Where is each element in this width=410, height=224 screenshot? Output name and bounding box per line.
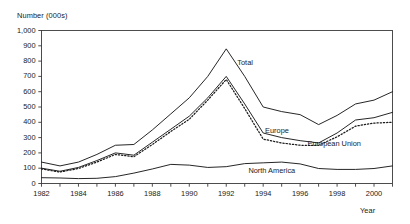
series-line bbox=[42, 162, 393, 179]
series-label: Total bbox=[237, 59, 253, 67]
series-label: Europe bbox=[265, 127, 289, 135]
series-label: European Union bbox=[308, 140, 361, 148]
series-lines bbox=[42, 49, 393, 179]
plot-area bbox=[0, 0, 410, 224]
chart-container: Number (000s) Year 010020030040050060070… bbox=[0, 0, 410, 224]
axis-tick-marks bbox=[38, 31, 392, 187]
series-label: North America bbox=[248, 167, 295, 175]
axis-lines bbox=[42, 31, 393, 184]
series-line bbox=[42, 79, 393, 172]
